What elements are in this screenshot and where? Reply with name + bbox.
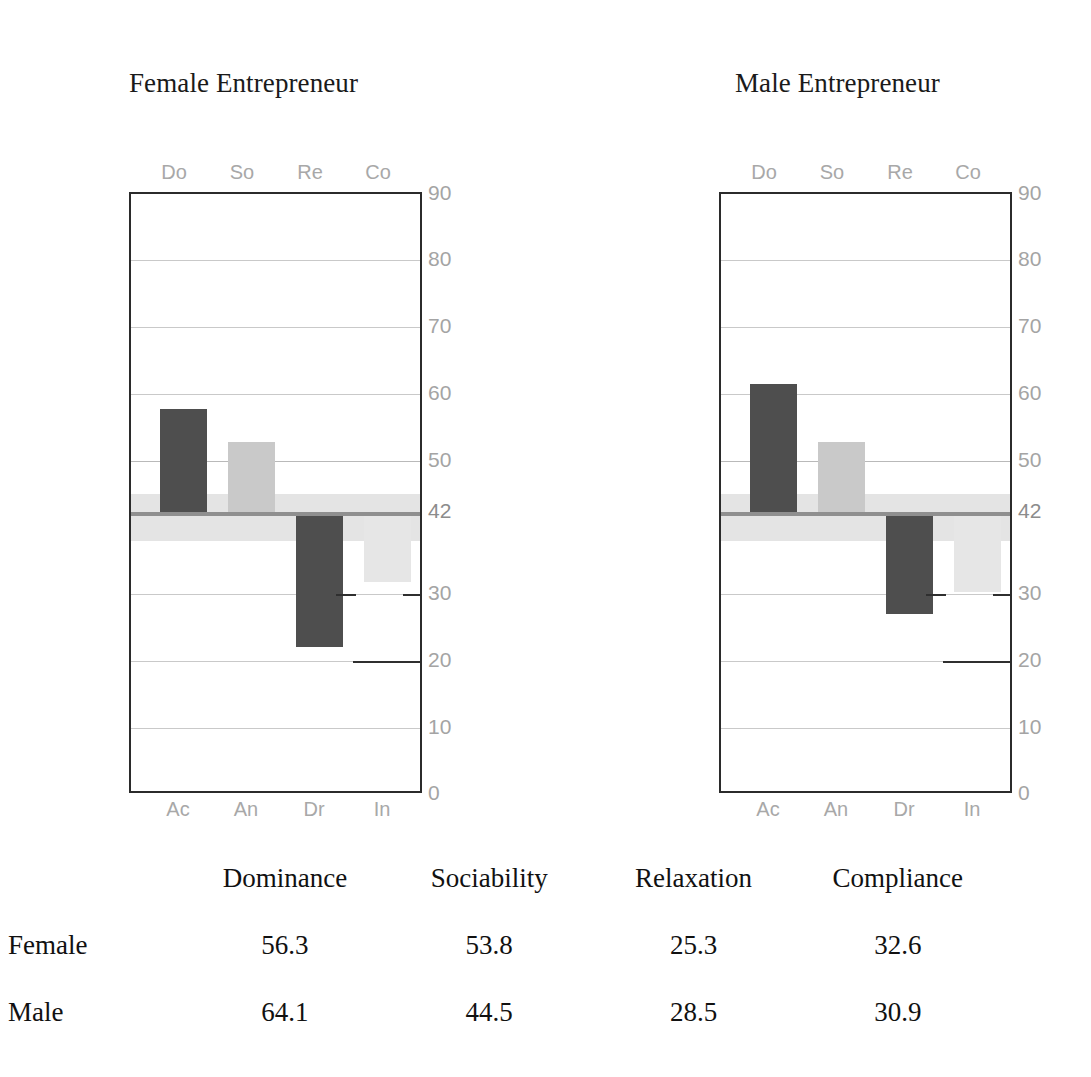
- bottom-label-drive: Dr: [869, 798, 939, 821]
- ytick-42: 42: [1018, 500, 1041, 521]
- bottom-label-independence: In: [347, 798, 417, 821]
- gridline-80: [721, 260, 1010, 261]
- ytick-90: 90: [428, 182, 451, 203]
- ytick-20: 20: [1018, 649, 1041, 670]
- bottom-label-acceptance: Ac: [733, 798, 803, 821]
- row-header-female: Female: [0, 912, 183, 979]
- chart-title-male: Male Entrepreneur: [735, 68, 940, 99]
- cell-male-relaxation: 28.5: [591, 979, 795, 1046]
- ytick-0: 0: [428, 782, 440, 803]
- ytick-30: 30: [428, 582, 451, 603]
- cell-male-sociability: 44.5: [387, 979, 591, 1046]
- stray-mark-30a: [336, 594, 356, 596]
- cell-female-sociability: 53.8: [387, 912, 591, 979]
- chart-panel-male: Do So Re Co 90 80 70 60 50 42 30 20 10 0…: [719, 192, 1012, 793]
- cell-male-dominance: 64.1: [183, 979, 387, 1046]
- gridline-10: [721, 728, 1010, 729]
- chart-panel-female: Do So Re Co 90 80 70 60 50 42 30 20 10 0…: [129, 192, 422, 793]
- table-header-row: Dominance Sociability Relaxation Complia…: [0, 845, 1000, 912]
- bar-male-relaxation: [886, 516, 933, 614]
- ytick-20: 20: [428, 649, 451, 670]
- table-corner-cell: [0, 845, 183, 912]
- stray-mark-20: [943, 661, 1011, 663]
- top-label-sociability: So: [207, 161, 277, 184]
- bottom-label-anxiety: An: [801, 798, 871, 821]
- col-header-compliance: Compliance: [796, 845, 1000, 912]
- plot-frame-female: [129, 192, 422, 793]
- cell-female-dominance: 56.3: [183, 912, 387, 979]
- ytick-90: 90: [1018, 182, 1041, 203]
- bar-male-dominance: [750, 384, 797, 514]
- col-header-dominance: Dominance: [183, 845, 387, 912]
- gridline-30: [721, 594, 1010, 595]
- chart-title-female: Female Entrepreneur: [129, 68, 358, 99]
- top-label-dominance: Do: [139, 161, 209, 184]
- gridline-70: [131, 327, 420, 328]
- top-label-compliance: Co: [343, 161, 413, 184]
- plot-frame-male: [719, 192, 1012, 793]
- table-row: Female 56.3 53.8 25.3 32.6: [0, 912, 1000, 979]
- top-label-compliance: Co: [933, 161, 1003, 184]
- gridline-10: [131, 728, 420, 729]
- bar-female-sociability: [228, 442, 275, 514]
- ytick-70: 70: [1018, 315, 1041, 336]
- gridline-30: [131, 594, 420, 595]
- top-label-sociability: So: [797, 161, 867, 184]
- ytick-60: 60: [1018, 382, 1041, 403]
- cell-female-relaxation: 25.3: [591, 912, 795, 979]
- col-header-sociability: Sociability: [387, 845, 591, 912]
- bar-male-compliance: [954, 516, 1001, 592]
- ytick-50: 50: [428, 449, 451, 470]
- ytick-10: 10: [428, 716, 451, 737]
- gridline-70: [721, 327, 1010, 328]
- bar-female-relaxation: [296, 516, 343, 647]
- ytick-42: 42: [428, 500, 451, 521]
- ytick-70: 70: [428, 315, 451, 336]
- table-row: Male 64.1 44.5 28.5 30.9: [0, 979, 1000, 1046]
- stray-mark-20: [353, 661, 421, 663]
- bar-male-sociability: [818, 442, 865, 514]
- ytick-30: 30: [1018, 582, 1041, 603]
- stray-mark-30b: [403, 594, 421, 596]
- bottom-label-anxiety: An: [211, 798, 281, 821]
- top-label-relaxation: Re: [865, 161, 935, 184]
- ytick-10: 10: [1018, 716, 1041, 737]
- bar-female-compliance: [364, 516, 411, 582]
- gridline-80: [131, 260, 420, 261]
- ytick-60: 60: [428, 382, 451, 403]
- top-label-dominance: Do: [729, 161, 799, 184]
- bottom-label-independence: In: [937, 798, 1007, 821]
- stray-mark-30a: [926, 594, 946, 596]
- stray-mark-30b: [993, 594, 1011, 596]
- bottom-label-drive: Dr: [279, 798, 349, 821]
- ytick-0: 0: [1018, 782, 1030, 803]
- ytick-80: 80: [428, 248, 451, 269]
- summary-data-table: Dominance Sociability Relaxation Complia…: [0, 845, 1000, 1046]
- gridline-60: [131, 394, 420, 395]
- ytick-50: 50: [1018, 449, 1041, 470]
- bar-female-dominance: [160, 409, 207, 514]
- cell-female-compliance: 32.6: [796, 912, 1000, 979]
- col-header-relaxation: Relaxation: [591, 845, 795, 912]
- ytick-80: 80: [1018, 248, 1041, 269]
- bottom-label-acceptance: Ac: [143, 798, 213, 821]
- row-header-male: Male: [0, 979, 183, 1046]
- top-label-relaxation: Re: [275, 161, 345, 184]
- cell-male-compliance: 30.9: [796, 979, 1000, 1046]
